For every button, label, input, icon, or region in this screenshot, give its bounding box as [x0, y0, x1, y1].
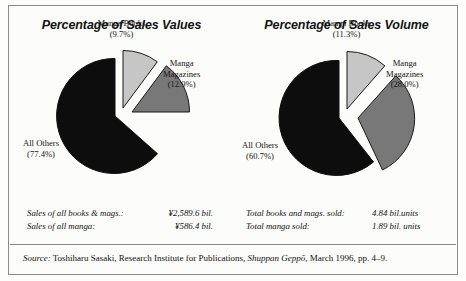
pie-label-mags-name-1: Manga — [393, 58, 417, 68]
source-prefix: Source: — [23, 253, 51, 263]
stats-block-left: Sales of all books & mags.:¥2,589.6 bil.… — [27, 208, 213, 234]
pie-label-mags-name-1: Manga — [170, 58, 194, 68]
stats-row: Sales of all manga:¥586.4 bil. — [27, 221, 213, 234]
pie-label-books-name: Manga Books — [323, 18, 371, 28]
pie-label-mags-name-2: Magazines — [163, 69, 200, 80]
stats-value: 1.89 bil. units — [366, 221, 442, 231]
pie-label-books-pct: (11.3%) — [323, 29, 371, 40]
chart-panel-sales-volume: Percentage of Sales Volume Manga Books (… — [234, 6, 459, 244]
source-divider — [10, 244, 456, 245]
stats-row: Total manga sold:1.89 bil. units — [246, 221, 442, 234]
stats-row: Total books and mags. sold:4.84 bil.unit… — [246, 208, 442, 221]
pie-chart-left: Manga Books (9.7%) Manga Magazines (12.9… — [9, 42, 234, 202]
pie-label-all-others-left: All Others (77.4%) — [23, 138, 59, 159]
stats-block-right: Total books and mags. sold:4.84 bil.unit… — [246, 208, 442, 234]
figure-container: Percentage of Sales Values Manga Books (… — [0, 0, 466, 281]
source-text-a: Toshiharu Sasaki, Research Institute for… — [51, 253, 248, 263]
source-note: Source: Toshiharu Sasaki, Research Insti… — [23, 253, 387, 263]
pie-chart-right: Manga Books (11.3%) Manga Magazines (28.… — [234, 42, 459, 202]
pie-label-others-pct: (77.4%) — [23, 149, 59, 160]
source-publication-title: Shuppan Geppō — [248, 253, 306, 263]
stats-value: 4.84 bil.units — [366, 208, 442, 218]
chart-panel-sales-values: Percentage of Sales Values Manga Books (… — [9, 6, 234, 244]
pie-label-manga-books-right: Manga Books (11.3%) — [323, 18, 371, 39]
stats-label: Sales of all manga: — [27, 221, 145, 231]
stats-label: Total manga sold: — [246, 221, 366, 231]
pie-label-all-others-right: All Others (60.7%) — [242, 140, 278, 161]
pie-label-books-name: Manga Books — [98, 18, 146, 28]
source-text-b: , March 1996, pp. 4–9. — [305, 253, 387, 263]
pie-label-books-pct: (9.7%) — [98, 29, 146, 40]
stats-value: ¥2,589.6 bil. — [145, 208, 213, 218]
pie-label-mags-pct: (28.0%) — [386, 79, 423, 90]
pie-label-manga-magazines-left: Manga Magazines (12.9%) — [163, 58, 200, 90]
stats-label: Total books and mags. sold: — [246, 208, 366, 218]
pie-label-mags-name-2: Magazines — [386, 69, 423, 80]
stats-value: ¥586.4 bil. — [145, 221, 213, 231]
pie-label-others-name: All Others — [242, 140, 278, 150]
pie-label-others-name: All Others — [23, 138, 59, 148]
stats-row: Sales of all books & mags.:¥2,589.6 bil. — [27, 208, 213, 221]
figure-frame: Percentage of Sales Values Manga Books (… — [8, 5, 458, 275]
pie-label-manga-magazines-right: Manga Magazines (28.0%) — [386, 58, 423, 90]
pie-label-manga-books-left: Manga Books (9.7%) — [98, 18, 146, 39]
pie-label-mags-pct: (12.9%) — [163, 79, 200, 90]
stats-label: Sales of all books & mags.: — [27, 208, 145, 218]
pie-label-others-pct: (60.7%) — [242, 151, 278, 162]
